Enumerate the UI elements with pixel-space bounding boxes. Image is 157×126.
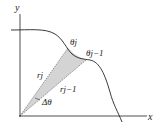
theta-j-label: θj (70, 37, 77, 47)
polar-area-diagram: y x θj θj−1 rj rj−1 Δθ (0, 0, 157, 126)
delta-theta-label: Δθ (41, 97, 52, 107)
r-j-label: rj (37, 70, 44, 80)
x-axis-label: x (147, 111, 153, 122)
diagram-canvas: y x θj θj−1 rj rj−1 Δθ (0, 0, 157, 126)
shaded-sector (20, 48, 86, 116)
theta-j-minus-1-label: θj−1 (86, 48, 104, 58)
r-j-minus-1-label: rj−1 (60, 84, 77, 94)
y-axis-label: y (14, 2, 20, 13)
